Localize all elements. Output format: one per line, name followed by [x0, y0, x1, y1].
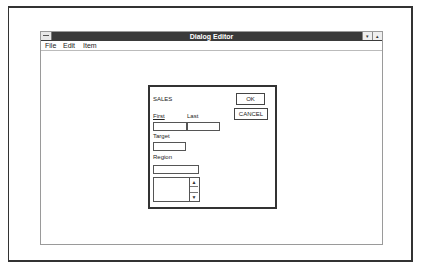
title-bar[interactable]: Dialog Editor ▾ ▴ — [41, 32, 382, 41]
target-input[interactable] — [153, 142, 186, 151]
window-title: Dialog Editor — [41, 32, 382, 41]
menu-edit[interactable]: Edit — [63, 41, 75, 50]
ok-button[interactable]: OK — [236, 93, 265, 105]
scroll-up-icon[interactable]: ▲ — [190, 178, 198, 187]
last-name-input[interactable] — [187, 122, 220, 131]
menu-item[interactable]: Item — [83, 41, 97, 50]
maximize-button[interactable]: ▴ — [372, 32, 382, 40]
scroll-down-icon[interactable]: ▼ — [190, 192, 198, 201]
target-label: Target — [153, 133, 170, 140]
menu-file[interactable]: File — [45, 41, 56, 50]
menu-bar: File Edit Item — [41, 41, 382, 51]
dialog-title: SALES — [153, 96, 172, 103]
sales-dialog: SALES OK CANCEL First Last Target Region… — [148, 85, 277, 209]
minimize-button[interactable]: ▾ — [362, 32, 372, 40]
listbox-scrollbar[interactable]: ▲ ▼ — [189, 178, 199, 201]
first-name-input[interactable] — [153, 122, 187, 131]
first-label: First — [153, 113, 165, 120]
region-listbox[interactable]: ▲ ▼ — [153, 177, 200, 202]
last-label: Last — [187, 113, 198, 120]
cancel-button[interactable]: CANCEL — [234, 108, 268, 120]
region-input[interactable] — [153, 165, 199, 174]
region-label: Region — [153, 154, 172, 161]
